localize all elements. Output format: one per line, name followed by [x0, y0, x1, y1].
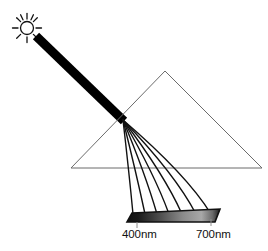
prism-dispersion-figure: 400nm 700nm — [0, 0, 268, 251]
wavelength-label-700: 700nm — [196, 228, 231, 240]
diagram-canvas: 400nm 700nm — [0, 0, 268, 251]
wavelength-label-400: 400nm — [122, 228, 157, 240]
